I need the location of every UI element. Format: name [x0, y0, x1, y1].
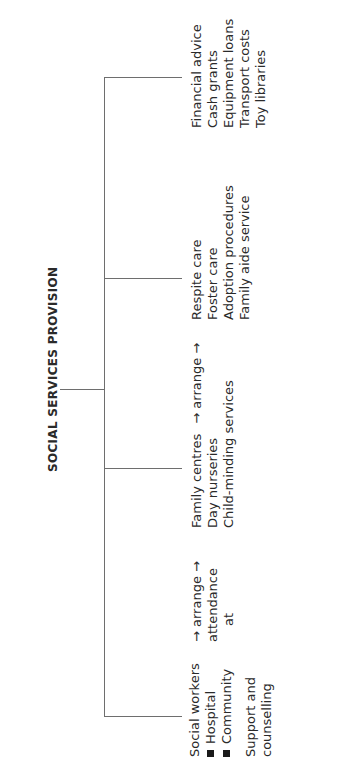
- bullet-text: Community: [219, 669, 234, 744]
- branch-note: counselling: [259, 663, 275, 757]
- square-bullet-icon: [207, 750, 214, 757]
- branch-item: Toy libraries: [253, 19, 269, 128]
- branch-note: Support and: [243, 663, 259, 757]
- title-text: SOCIAL SERVICES PROVISION: [46, 267, 60, 472]
- branch-item: Respite care: [189, 185, 205, 320]
- branch-respite-care: Respite care Foster care Adoption proced…: [189, 185, 253, 320]
- branch-family-centres: Family centres→ arrange → Day nurseries …: [189, 343, 237, 528]
- main-bus-line: [104, 77, 105, 717]
- bullet-text: Hospital: [203, 691, 218, 744]
- branch-connector-financial: [104, 77, 182, 78]
- branch-item: Equipment loans: [221, 19, 237, 128]
- branch-connector-social-workers: [104, 716, 182, 717]
- branch-item: Adoption procedures: [221, 185, 237, 320]
- item-text: Family centres: [189, 434, 204, 528]
- branch-item: Child-minding services: [221, 343, 237, 528]
- branch-text: attendance: [205, 561, 221, 642]
- square-bullet-icon: [223, 750, 230, 757]
- branch-item: Cash grants: [205, 19, 221, 128]
- spacer: [235, 663, 243, 757]
- branch-item: Foster care: [205, 185, 221, 320]
- branch-connector-family-centres: [104, 468, 182, 469]
- branch-social-workers: Social workers Hospital Community Suppor…: [187, 663, 275, 757]
- branch-item: Transport costs: [237, 19, 253, 128]
- title-connector: [60, 389, 104, 390]
- bullet-item: Community: [219, 663, 235, 757]
- branch-item: Family centres→ arrange →: [189, 343, 205, 528]
- bullet-item: Hospital: [203, 663, 219, 757]
- diagram-title: SOCIAL SERVICES PROVISION: [46, 267, 60, 472]
- branch-item: Family aide service: [237, 185, 253, 320]
- branch-item: Day nurseries: [205, 343, 221, 528]
- branch-item: Financial advice: [189, 19, 205, 128]
- branch-connector-respite: [104, 278, 182, 279]
- branch-arrange-attendance: → arrange → attendance at: [189, 561, 237, 642]
- arrow-text: → arrange →: [189, 561, 205, 642]
- branch-label: Social workers: [187, 663, 203, 757]
- branch-financial: Financial advice Cash grants Equipment l…: [189, 19, 269, 128]
- branch-text: at: [221, 561, 237, 642]
- arrow-text: → arrange →: [189, 343, 204, 424]
